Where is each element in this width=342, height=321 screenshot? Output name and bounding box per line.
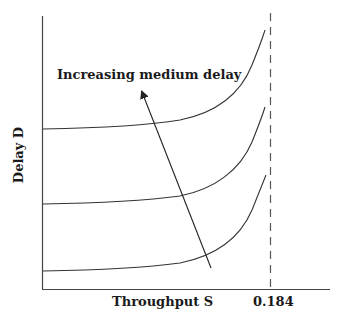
curve-low-delay — [43, 175, 266, 271]
y-axis-label: Delay D — [11, 127, 26, 183]
chart-plot — [0, 0, 342, 321]
x-tick-label: 0.184 — [253, 294, 294, 309]
increasing-delay-arrow — [142, 92, 211, 268]
delay-throughput-chart: Increasing medium delay Throughput S 0.1… — [0, 0, 342, 321]
annotation-label: Increasing medium delay — [57, 67, 241, 82]
x-axis-label: Throughput S — [112, 294, 213, 309]
